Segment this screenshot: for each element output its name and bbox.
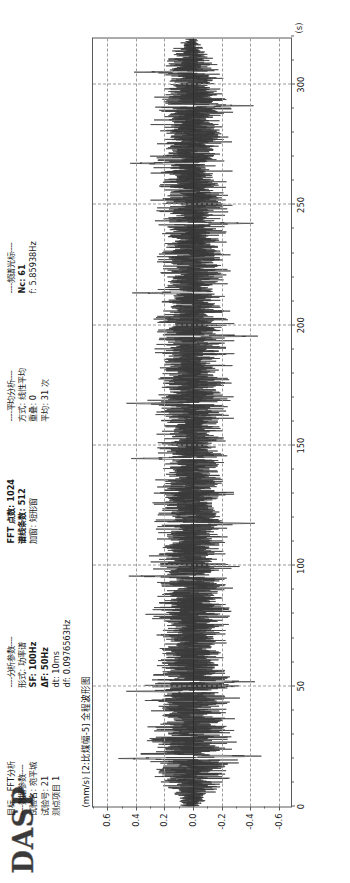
y-axis-minor-tick — [179, 806, 180, 809]
x-axis-tick-label: 50 — [296, 680, 306, 691]
y-axis-tick-label: -0.4 — [245, 813, 255, 829]
x-axis-tick — [291, 805, 295, 806]
param-column-fft: FFT 点数: 1024 谱线条数: 512 加窗: 短形窗 — [6, 478, 40, 543]
x-axis-tick-label: 100 — [296, 557, 306, 573]
param-row-measure-point: 测点项目 1 — [51, 761, 62, 815]
y-axis-tick — [136, 806, 137, 810]
x-axis-unit-label: (s) — [294, 22, 304, 33]
x-axis-tick — [291, 83, 295, 84]
x-axis-tick-label: 0 — [296, 803, 306, 808]
y-axis-minor-tick — [150, 806, 151, 809]
x-axis-minor-tick — [291, 733, 294, 734]
y-axis-tick-label: -0.6 — [274, 813, 284, 829]
x-axis-minor-tick — [291, 131, 294, 132]
y-gridline — [279, 38, 280, 806]
x-axis-tick — [291, 564, 295, 565]
x-axis-minor-tick — [291, 179, 294, 180]
x-gridline — [93, 203, 291, 204]
x-axis-minor-tick — [291, 276, 294, 277]
x-axis-tick-label: 300 — [296, 76, 306, 92]
y-axis-tick-label: 0.4 — [131, 813, 141, 826]
y-axis-tick — [193, 806, 194, 810]
param-column-average: ----平均分析---- 方式: 线性平均 重叠: 0 平均: 31 次 — [6, 368, 51, 421]
param-column-analysis: ----分析参数---- 形式: 功率谱 SF: 100Hz ΔF: 50Hz … — [6, 619, 73, 687]
y-gridline — [222, 38, 223, 806]
y-axis-minor-tick — [122, 806, 123, 809]
x-gridline — [93, 685, 291, 686]
param-row-test-name: 试验名: 宛平城 — [28, 761, 39, 815]
analysis-section-header: ----分析参数---- — [6, 619, 17, 687]
x-gridline — [93, 324, 291, 325]
plot-inner — [93, 38, 291, 806]
x-axis-minor-tick — [291, 300, 294, 301]
param-row-overlap: 重叠: 0 — [28, 368, 39, 421]
y-axis-tick — [279, 806, 280, 810]
x-axis-tick-label: 200 — [296, 317, 306, 333]
x-axis-minor-tick — [291, 757, 294, 758]
param-row-dt: dt: 10ms — [51, 619, 62, 687]
y-axis-tick — [107, 806, 108, 810]
x-axis-minor-tick — [291, 492, 294, 493]
param-row-form: 形式: 功率谱 — [17, 619, 28, 687]
y-axis-minor-tick — [236, 806, 237, 809]
analysis-mode-label: 目标 - FFT分析 — [6, 761, 17, 815]
x-axis-minor-tick — [291, 781, 294, 782]
x-axis-minor-tick — [291, 35, 294, 36]
average-section-header: ----平均分析---- — [6, 368, 17, 421]
param-row-df: df: 0.0976563Hz — [62, 619, 73, 687]
x-axis-minor-tick — [291, 348, 294, 349]
x-axis-minor-tick — [291, 516, 294, 517]
x-axis-minor-tick — [291, 420, 294, 421]
x-axis-minor-tick — [291, 155, 294, 156]
y-axis-tick — [250, 806, 251, 810]
y-axis-tick — [164, 806, 165, 810]
zero-baseline — [193, 38, 194, 806]
y-axis-tick-label: 0.6 — [102, 813, 112, 826]
param-row-test-no: 试验号: 21 — [40, 761, 51, 815]
param-row-sf: SF: 100Hz — [28, 619, 39, 687]
param-row-avg-mode: 方式: 线性平均 — [17, 368, 28, 421]
waveform-plot-area[interactable]: 050100150200250300-0.6-0.4-0.20.00.20.40… — [92, 37, 292, 807]
figure-rotation-wrapper: DASP 目标 - FFT分析 ----数据参数---- 试验名: 宛平城 试验… — [0, 0, 350, 883]
y-axis-minor-tick — [207, 806, 208, 809]
x-axis-tick-label: 250 — [296, 196, 306, 212]
param-row-window: 加窗: 短形窗 — [28, 478, 39, 543]
y-gridline — [250, 38, 251, 806]
x-axis-minor-tick — [291, 588, 294, 589]
parameter-header: DASP 目标 - FFT分析 ----数据参数---- 试验名: 宛平城 试验… — [6, 7, 80, 873]
x-gridline — [93, 444, 291, 445]
waveform-path — [118, 38, 261, 806]
waveform-trace — [93, 38, 291, 806]
param-row-avg-count: 平均: 31 次 — [40, 368, 51, 421]
cursor-section-header: ----频谱光标---- — [6, 241, 17, 293]
x-axis-minor-tick — [291, 661, 294, 662]
x-axis-minor-tick — [291, 468, 294, 469]
x-axis-tick — [291, 203, 295, 204]
y-axis-minor-tick — [93, 806, 94, 809]
x-gridline — [93, 564, 291, 565]
param-row-fft-points: FFT 点数: 1024 — [6, 478, 17, 543]
chart-title: (mm/s) [2:比煤幅-5] 全程波形图 — [79, 675, 91, 807]
y-axis-tick-label: 0.2 — [159, 813, 169, 826]
param-row-nc: Nc: 61 — [17, 241, 28, 293]
x-axis-minor-tick — [291, 613, 294, 614]
x-axis-tick-label: 150 — [296, 437, 306, 453]
y-axis-tick-label: -0.2 — [217, 813, 227, 829]
y-axis-tick — [222, 806, 223, 810]
x-axis-minor-tick — [291, 107, 294, 108]
param-row-cursor-freq: f: 5.85938Hz — [28, 241, 39, 293]
x-axis-minor-tick — [291, 228, 294, 229]
x-axis-minor-tick — [291, 372, 294, 373]
y-gridline — [164, 38, 165, 806]
dasp-waveform-figure: DASP 目标 - FFT分析 ----数据参数---- 试验名: 宛平城 试验… — [0, 0, 350, 883]
x-axis-tick — [291, 324, 295, 325]
param-row-spectral-lines: 谱线条数: 512 — [17, 478, 28, 543]
x-axis-minor-tick — [291, 540, 294, 541]
y-gridline — [107, 38, 108, 806]
param-column-data: 目标 - FFT分析 ----数据参数---- 试验名: 宛平城 试验号: 21… — [6, 761, 62, 815]
x-axis-minor-tick — [291, 637, 294, 638]
x-axis-minor-tick — [291, 396, 294, 397]
data-section-header: ----数据参数---- — [17, 761, 28, 815]
y-axis-tick-label: 0.0 — [188, 813, 198, 826]
param-row-delta-f: ΔF: 50Hz — [40, 619, 51, 687]
